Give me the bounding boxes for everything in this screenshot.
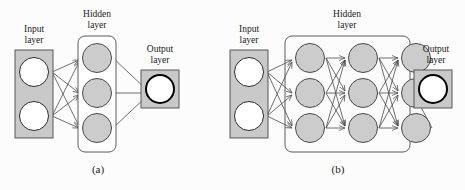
panel-a-edges-input-hidden	[52, 60, 79, 128]
panel-b-hidden-label-line2: layer	[338, 20, 358, 30]
panel-b-hidden-node	[296, 79, 325, 108]
panel-b-output-label-line1: Output	[423, 44, 450, 54]
panel-b: Input layer Hidden layer Output layer (b…	[230, 9, 452, 176]
panel-b-hidden-node	[296, 114, 325, 143]
panel-b-hidden-node	[349, 79, 378, 108]
panel-b-output-label-line2: layer	[427, 55, 447, 65]
panel-b-input-label-line2: layer	[240, 35, 260, 45]
panel-a-input-node	[20, 58, 49, 87]
neural-network-figure: Input layer Hidden layer Output layer (a…	[0, 0, 465, 190]
panel-b-hidden-node	[296, 44, 325, 73]
panel-b-output-node	[419, 75, 447, 103]
figure-svg: Input layer Hidden layer Output layer (a…	[0, 0, 465, 190]
panel-a-hidden-node	[83, 44, 112, 73]
panel-a-input-node	[20, 102, 49, 131]
panel-b-caption: (b)	[332, 163, 345, 176]
panel-a-output-node	[146, 75, 174, 103]
panel-a-output-label-line2: layer	[151, 55, 171, 65]
panel-b-hidden-node	[349, 114, 378, 143]
panel-a-input-label-line2: layer	[25, 35, 45, 45]
panel-a-hidden-label-line1: Hidden	[83, 9, 111, 19]
panel-b-hidden-label-line1: Hidden	[333, 9, 361, 19]
panel-b-input-node	[235, 58, 264, 87]
panel-a: Input layer Hidden layer Output layer (a…	[15, 9, 179, 176]
panel-b-edges-hidden2-hidden3	[379, 58, 398, 128]
panel-a-hidden-node	[83, 79, 112, 108]
panel-a-caption: (a)	[92, 163, 105, 176]
panel-a-hidden-node	[83, 114, 112, 143]
panel-a-hidden-label-line2: layer	[88, 20, 108, 30]
panel-b-input-label-line1: Input	[239, 24, 259, 34]
panel-a-input-label-line1: Input	[24, 24, 44, 34]
panel-b-hidden-node	[402, 114, 431, 143]
panel-b-input-node	[235, 102, 264, 131]
panel-b-hidden-node	[349, 44, 378, 73]
panel-b-edges-hidden1-hidden2	[326, 58, 345, 128]
panel-b-edges-input-hidden1	[267, 60, 292, 128]
panel-a-output-label-line1: Output	[147, 44, 174, 54]
